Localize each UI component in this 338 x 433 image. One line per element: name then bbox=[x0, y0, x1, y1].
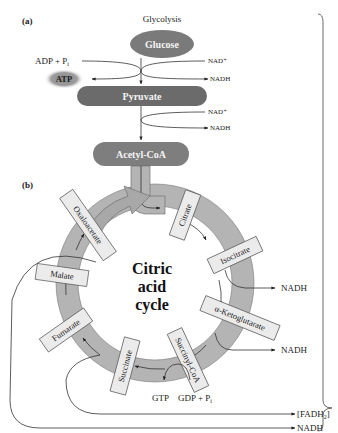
svg-text:acid: acid bbox=[138, 278, 167, 295]
nad-input-2: NAD⁺ bbox=[208, 108, 227, 116]
svg-text:ADP + Pi: ADP + Pi bbox=[35, 56, 69, 67]
nadh-output-1: NADH bbox=[210, 75, 230, 83]
nad-input-1: NAD⁺ bbox=[208, 57, 227, 65]
nadh-isocitrate-output: NADH bbox=[281, 283, 307, 293]
svg-text:ATP: ATP bbox=[56, 74, 72, 84]
gdp-input: GDP + Pi bbox=[178, 393, 212, 404]
cycle-center-label: Citric acid cycle bbox=[132, 260, 172, 314]
glucose-node: Glucose bbox=[130, 30, 194, 58]
glucose-label: Glucose bbox=[145, 39, 179, 50]
gtp-output: GTP bbox=[152, 393, 169, 403]
nadh-ketoglutarate-output: NADH bbox=[281, 345, 307, 355]
citric-acid-cycle-diagram: (a) Glycolysis Glucose ADP + Pi ATP NAD⁺… bbox=[0, 0, 338, 433]
nad-nadh-arrow-1 bbox=[141, 61, 208, 79]
svg-text:Citric: Citric bbox=[132, 260, 172, 277]
panel-b-label: (b) bbox=[22, 180, 33, 190]
acetyl-coa-node: Acetyl-CoA bbox=[93, 142, 189, 166]
nadh-malate-output: NADH bbox=[297, 423, 323, 433]
glycolysis-title: Glycolysis bbox=[143, 14, 182, 24]
adp-pi-input: ADP + Pi bbox=[35, 56, 69, 67]
adp-atp-arrow bbox=[82, 61, 141, 79]
pyruvate-label: Pyruvate bbox=[123, 91, 162, 102]
malate-box: Malate bbox=[35, 263, 89, 286]
right-brace bbox=[318, 14, 332, 431]
svg-text:cycle: cycle bbox=[135, 296, 169, 314]
acetyl-coa-label: Acetyl-CoA bbox=[116, 149, 167, 160]
panel-a-label: (a) bbox=[22, 16, 33, 26]
pyruvate-node: Pyruvate bbox=[77, 86, 207, 106]
nadh-output-2: NADH bbox=[210, 124, 230, 132]
atp-output: ATP bbox=[44, 69, 84, 89]
nad-nadh-arrow-2 bbox=[141, 112, 208, 128]
